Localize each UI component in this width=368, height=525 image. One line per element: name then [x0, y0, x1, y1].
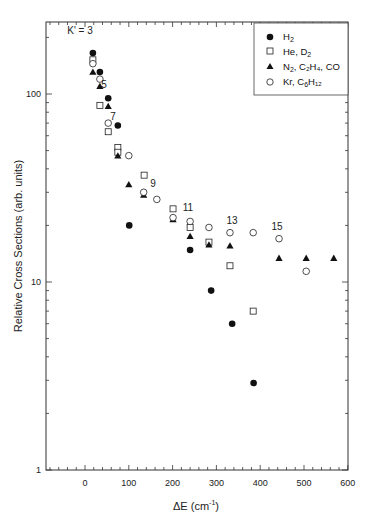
h2-point [126, 222, 133, 229]
x-tick-label: 0 [82, 478, 87, 488]
x-tick-label: 500 [296, 478, 311, 488]
k-prime-label: 5 [101, 79, 107, 90]
k-prime-annotations: K' = 3579111315 [67, 25, 283, 232]
open-circle-icon [267, 79, 273, 85]
he-d2-point [250, 308, 256, 314]
x-tick-label: 600 [340, 478, 355, 488]
kr-point [187, 218, 194, 225]
h2-point [90, 50, 97, 57]
legend-label-he-d2: He, D2 [283, 46, 311, 58]
n2-point [303, 255, 310, 261]
kr-point [276, 235, 283, 242]
kr-point [90, 60, 97, 67]
kr-point [154, 196, 161, 203]
n2-point [89, 68, 96, 74]
legend: H2 He, D2 N2, C₂H₄, CO Kr, C6H₁₂ [254, 23, 348, 95]
he-d2-point [227, 263, 233, 269]
y-tick-label: 1 [36, 465, 41, 475]
n2-point [105, 103, 112, 109]
h2-point [250, 380, 257, 387]
scatter-chart: 0100200300400500600 110100 K' = 35791113… [0, 0, 368, 525]
n2-point [226, 242, 233, 248]
h2-point [105, 95, 112, 102]
k-prime-label: 9 [150, 178, 156, 189]
n2-point [187, 233, 194, 239]
y-axis: 110100 [26, 37, 348, 475]
filled-circle-icon [267, 34, 274, 41]
kr-point [303, 268, 310, 275]
x-tick-label: 400 [253, 478, 268, 488]
data-points [89, 50, 337, 387]
h2-point [97, 69, 104, 76]
he-d2-point [105, 129, 111, 135]
kr-point [227, 229, 234, 236]
he-d2-point [187, 224, 193, 230]
x-tick-label: 300 [209, 478, 224, 488]
kr-point [126, 152, 133, 159]
he-d2-point [97, 102, 103, 108]
h2-point [115, 122, 122, 129]
he-d2-point [141, 172, 147, 178]
x-axis-title: ΔE (cm-1) [173, 499, 219, 512]
y-axis-title: Relative Cross Sections (arb. units) [12, 160, 24, 332]
h2-point [208, 287, 215, 294]
x-tick-label: 200 [165, 478, 180, 488]
kr-point [140, 189, 147, 196]
x-tick-label: 100 [121, 478, 136, 488]
k-prime-label: 11 [183, 202, 194, 213]
n2-point [275, 255, 282, 261]
h2-point [187, 247, 194, 254]
k-prime-label: 7 [110, 111, 116, 122]
kr-point [250, 229, 257, 236]
k-prime-label: 13 [226, 215, 238, 226]
n2-point [330, 255, 337, 261]
kr-point [170, 214, 177, 221]
he-d2-point [170, 206, 176, 212]
n2-point [125, 181, 132, 187]
open-square-icon [267, 48, 273, 54]
y-tick-label: 100 [26, 89, 41, 99]
k-prime-label: 15 [271, 221, 283, 232]
h2-point [229, 320, 236, 327]
y-tick-label: 10 [31, 277, 41, 287]
k-prime-label: K' = 3 [67, 25, 93, 36]
legend-label-kr: Kr, C6H₁₂ [283, 76, 322, 88]
kr-point [206, 224, 213, 231]
